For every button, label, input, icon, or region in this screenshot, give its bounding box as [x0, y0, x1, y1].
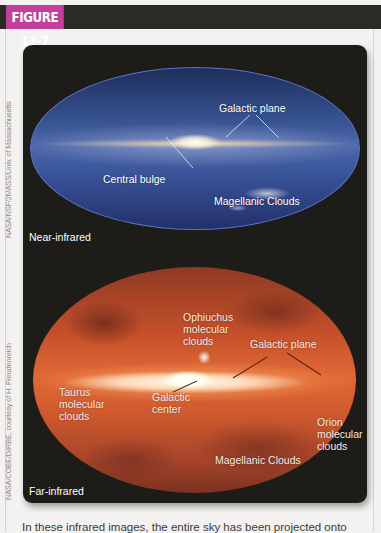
label-ophiuchus-line1: Ophiuchus — [183, 311, 233, 323]
figure-image-panel: Galactic plane Central bulge Magellanic … — [23, 45, 367, 503]
label-magellanic-clouds-far: Magellanic Clouds — [215, 454, 301, 466]
label-taurus-line2: molecular — [59, 398, 105, 410]
band-label-near-infrared: Near-infrared — [29, 231, 91, 243]
label-orion-line2: molecular — [317, 428, 363, 440]
label-orion-line3: clouds — [317, 440, 347, 452]
label-orion-line1: Orion — [317, 416, 343, 428]
label-ophiuchus-line2: molecular — [183, 323, 229, 335]
label-galactic-center-line1: Galactic — [152, 391, 190, 403]
label-central-bulge: Central bulge — [103, 173, 165, 185]
figure-label: FIGURE 12-7 — [6, 5, 64, 29]
label-galactic-center-line2: center — [152, 403, 181, 415]
label-ophiuchus-line3: clouds — [183, 335, 213, 347]
label-taurus-line1: Taurus — [59, 386, 91, 398]
figure-caption: In these infrared images, the entire sky… — [22, 521, 347, 533]
label-galactic-plane-far: Galactic plane — [250, 338, 317, 350]
label-magellanic-clouds-near: Magellanic Clouds — [214, 195, 300, 207]
page-margin-line-right — [373, 29, 374, 532]
credit-near-infrared: NASA/NSF/2MASS/Univ. of Massachusetts — [4, 101, 13, 238]
label-galactic-plane-near: Galactic plane — [219, 102, 286, 114]
credit-far-infrared: NASA/COBE/DIRBE, courtesy of H. Freudenr… — [4, 343, 13, 500]
band-label-far-infrared: Far-infrared — [29, 485, 84, 497]
leader-lines — [23, 45, 367, 503]
label-taurus-line3: clouds — [59, 410, 89, 422]
